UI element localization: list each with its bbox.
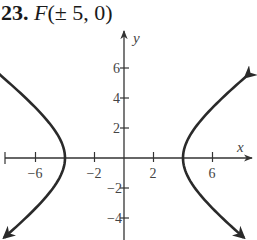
y-tick-label: −4 bbox=[107, 211, 122, 226]
x-tick-label: −6 bbox=[28, 166, 43, 181]
y-tick-label: 4 bbox=[113, 91, 120, 106]
x-axis-label: x bbox=[236, 139, 244, 155]
x-tick-label: 6 bbox=[209, 166, 216, 181]
hyperbola-left-branch bbox=[0, 74, 65, 238]
y-tick-label: 6 bbox=[113, 61, 120, 76]
y-tick-label: −2 bbox=[107, 181, 122, 196]
y-axis-label: y bbox=[131, 30, 140, 46]
hyperbola-graph: −6−226 642−2−4 x y bbox=[0, 0, 257, 240]
y-ticks: 642−2−4 bbox=[107, 61, 129, 226]
y-tick-label: 2 bbox=[113, 121, 120, 136]
x-tick-label: −2 bbox=[87, 166, 102, 181]
hyperbola-right-branch bbox=[183, 77, 245, 238]
x-tick-label: 2 bbox=[150, 166, 157, 181]
